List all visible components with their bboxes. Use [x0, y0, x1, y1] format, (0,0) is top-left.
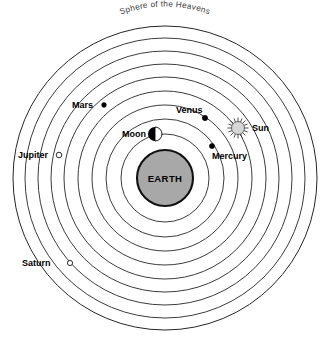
saturn-body-group: Saturn	[22, 258, 73, 268]
moon-label: Moon	[122, 129, 146, 139]
diagram-title-textpath: Sphere of the Heavens	[119, 0, 212, 16]
saturn-label: Saturn	[22, 258, 51, 268]
sun-label: Sun	[252, 123, 269, 133]
venus-label: Venus	[176, 105, 203, 115]
half-moon-lit-icon	[155, 127, 162, 141]
half-moon-icon	[148, 127, 155, 141]
mars-body-group: Mars	[72, 100, 106, 110]
jupiter-label: Jupiter	[18, 150, 49, 160]
mercury-dot-icon	[209, 143, 214, 148]
mercury-label: Mercury	[212, 151, 247, 161]
diagram-title: Sphere of the Heavens	[119, 0, 212, 16]
geocentric-diagram-canvas: Sphere of the Heavens EARTH Moon Mercury…	[0, 0, 326, 351]
jupiter-hollow-dot-icon	[56, 152, 62, 158]
sun-starburst-icon	[228, 118, 249, 139]
mars-dot-icon	[102, 103, 107, 108]
venus-body-group: Venus	[176, 105, 208, 121]
earth-label: EARTH	[148, 173, 183, 184]
mars-label: Mars	[72, 100, 93, 110]
moon-body-group: Moon	[122, 127, 162, 141]
earth-body-group: EARTH	[137, 150, 193, 206]
cosmology-diagram: Sphere of the Heavens EARTH Moon Mercury…	[0, 0, 326, 351]
jupiter-body-group: Jupiter	[18, 150, 62, 160]
saturn-hollow-dot-icon	[67, 260, 72, 265]
venus-dot-icon	[202, 115, 207, 120]
